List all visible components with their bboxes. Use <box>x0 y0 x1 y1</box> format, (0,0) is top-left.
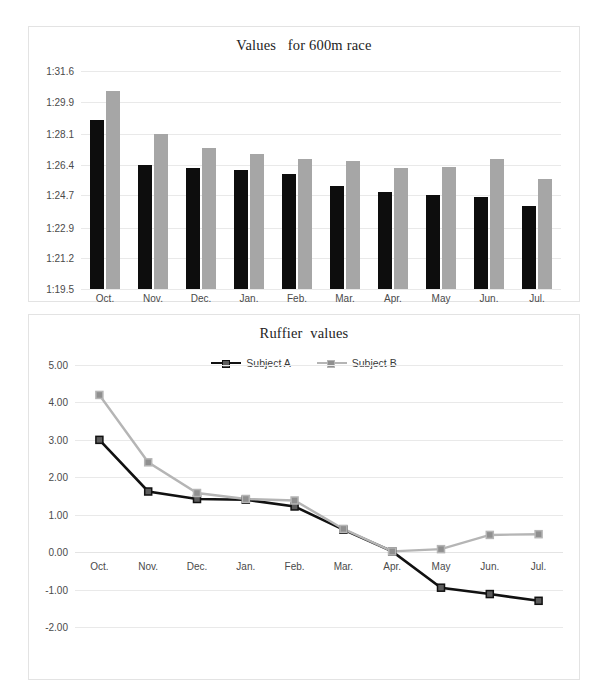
bar-subject-b <box>250 154 264 289</box>
bar-subject-a <box>138 165 152 289</box>
y-axis-tick-label: 5.00 <box>49 360 68 371</box>
x-axis-tick-label: Oct. <box>96 293 114 304</box>
y-axis-tick-label: 1:21.2 <box>46 253 74 264</box>
x-axis-tick-label: Jan. <box>240 293 259 304</box>
data-point-subject-b <box>486 531 493 538</box>
bar-group <box>522 71 552 289</box>
bar-group <box>186 71 216 289</box>
bar-subject-b <box>538 179 552 289</box>
line-chart-title: Ruffier values <box>29 325 579 342</box>
bar-subject-b <box>394 168 408 289</box>
bar-group <box>234 71 264 289</box>
x-axis-tick-label: Nov. <box>138 561 158 572</box>
x-axis-tick-label: Dec. <box>191 293 212 304</box>
bar-subject-a <box>234 170 248 289</box>
data-point-subject-b <box>194 490 201 497</box>
bar-subject-b <box>442 167 456 290</box>
x-axis-tick-label: Feb. <box>285 561 305 572</box>
y-axis-tick-label: 0.00 <box>49 547 68 558</box>
y-axis-tick-label: 2.00 <box>49 472 68 483</box>
bar-group <box>90 71 120 289</box>
gridline <box>81 289 561 290</box>
bar-chart-panel: Values for 600m race 1:31.61:29.91:28.11… <box>28 26 580 302</box>
data-point-subject-a <box>535 597 542 604</box>
line-chart-panel: Ruffier values Subject A Subject B 5.004… <box>28 314 580 680</box>
bar-subject-b <box>346 161 360 289</box>
bar-subject-a <box>522 206 536 289</box>
bar-subject-a <box>474 197 488 289</box>
data-point-subject-b <box>438 546 445 553</box>
y-axis-tick-label: 1:26.4 <box>46 159 74 170</box>
x-axis-tick-label: Jun. <box>480 293 499 304</box>
data-point-subject-b <box>291 497 298 504</box>
y-axis-tick-label: 1:29.9 <box>46 96 74 107</box>
y-axis-tick-label: -2.00 <box>45 622 68 633</box>
data-point-subject-b <box>535 531 542 538</box>
data-point-subject-b <box>96 391 103 398</box>
x-axis-tick-label: Jun. <box>480 561 499 572</box>
bar-chart-title: Values for 600m race <box>29 37 579 54</box>
y-axis-tick-label: -1.00 <box>45 584 68 595</box>
bar-subject-a <box>282 174 296 289</box>
bar-subject-b <box>490 159 504 289</box>
bar-subject-b <box>106 91 120 289</box>
x-axis-tick-label: Dec. <box>187 561 208 572</box>
x-axis-tick-label: May <box>432 561 451 572</box>
y-axis-tick-label: 1:28.1 <box>46 129 74 140</box>
y-axis-tick-label: 4.00 <box>49 397 68 408</box>
y-axis-tick-label: 1:24.7 <box>46 190 74 201</box>
line-chart-plot-area: 5.004.003.002.001.000.00-1.00-2.00 Oct.N… <box>75 365 563 627</box>
bar-group <box>426 71 456 289</box>
x-axis-tick-label: Mar. <box>335 293 354 304</box>
line-chart-series <box>75 365 563 627</box>
x-axis-tick-label: Nov. <box>143 293 163 304</box>
data-point-subject-b <box>389 548 396 555</box>
bar-subject-a <box>378 192 392 289</box>
data-point-subject-a <box>145 488 152 495</box>
bar-subject-a <box>330 186 344 289</box>
y-axis-tick-label: 1:31.6 <box>46 66 74 77</box>
bar-group <box>282 71 312 289</box>
bar-subject-a <box>186 168 200 289</box>
x-axis-tick-label: Feb. <box>287 293 307 304</box>
x-axis-tick-label: Oct. <box>90 561 108 572</box>
bar-group <box>330 71 360 289</box>
x-axis-tick-label: May <box>432 293 451 304</box>
data-point-subject-b <box>242 495 249 502</box>
bar-group <box>474 71 504 289</box>
data-point-subject-b <box>145 459 152 466</box>
data-point-subject-b <box>340 525 347 532</box>
y-axis-tick-label: 1:22.9 <box>46 222 74 233</box>
x-axis-tick-label: Jan. <box>236 561 255 572</box>
x-axis-tick-label: Jul. <box>529 293 545 304</box>
bar-subject-a <box>426 195 440 289</box>
bar-group <box>138 71 168 289</box>
gridline <box>75 627 563 628</box>
y-axis-tick-label: 1:19.5 <box>46 284 74 295</box>
y-axis-tick-label: 1.00 <box>49 509 68 520</box>
bar-subject-b <box>154 134 168 289</box>
y-axis-tick-label: 3.00 <box>49 434 68 445</box>
x-axis-tick-label: Apr. <box>383 561 401 572</box>
bar-subject-b <box>202 148 216 289</box>
bar-subject-a <box>90 120 104 289</box>
data-point-subject-a <box>486 591 493 598</box>
x-axis-tick-label: Jul. <box>531 561 547 572</box>
bar-group <box>378 71 408 289</box>
x-axis-tick-label: Mar. <box>334 561 353 572</box>
data-point-subject-a <box>96 436 103 443</box>
line-subject-a <box>99 440 538 601</box>
x-axis-tick-label: Apr. <box>384 293 402 304</box>
bar-chart-plot-area: 1:31.61:29.91:28.11:26.41:24.71:22.91:21… <box>81 71 561 289</box>
bar-subject-b <box>298 159 312 289</box>
data-point-subject-a <box>438 584 445 591</box>
line-subject-b <box>99 395 538 551</box>
